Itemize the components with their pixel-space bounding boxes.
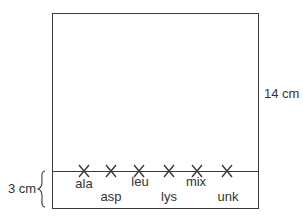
spot-label-unk: unk xyxy=(218,190,239,203)
spot-label-ala: ala xyxy=(75,177,92,190)
spot-label-mix: mix xyxy=(186,175,206,188)
spot-label-leu: leu xyxy=(131,175,148,188)
spot-label-asp: asp xyxy=(101,190,122,203)
origin-offset-label: 3 cm xyxy=(8,182,36,195)
spot-mark-lys-icon xyxy=(162,164,176,178)
spot-label-lys: lys xyxy=(161,190,177,203)
sheet-height-label: 14 cm xyxy=(264,87,299,100)
spot-mark-asp-icon xyxy=(104,164,118,178)
curly-brace-icon xyxy=(36,170,48,208)
spot-mark-unk-icon xyxy=(220,164,234,178)
